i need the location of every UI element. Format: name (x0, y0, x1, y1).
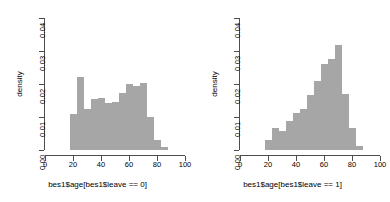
y-tick-label-wrap-right: 0.04 (195, 18, 233, 19)
histogram-bar (133, 86, 140, 150)
y-tick-label-left: 0.01 (38, 122, 47, 137)
histogram-bar (272, 128, 279, 150)
y-tick-label-wrap-right: 0.02 (195, 84, 233, 85)
histogram-panel-leave-1: density 0.000.010.020.030.04 02040608010… (195, 0, 390, 202)
x-axis-title-left: bes1$age[bes1$leave == 0] (0, 180, 195, 189)
y-tick-label-left: 0.03 (38, 56, 47, 71)
histogram-bar (279, 131, 286, 150)
x-axis-line-right (240, 155, 380, 156)
histogram-bar (91, 99, 98, 150)
x-tick-label-right: 20 (253, 160, 283, 169)
x-tick-label-right: 60 (309, 160, 339, 169)
histogram-bar (70, 114, 77, 150)
y-tick-left (39, 18, 44, 19)
y-tick-label-right: 0.01 (233, 122, 242, 137)
x-tick-label-left: 40 (86, 160, 116, 169)
y-tick-left (39, 84, 44, 85)
histogram-bar (328, 59, 335, 150)
histogram-bar (349, 128, 356, 150)
histogram-bar (147, 117, 154, 150)
y-tick-label-left: 0.04 (38, 23, 47, 38)
y-tick-label-wrap-left: 0.04 (0, 18, 38, 19)
histogram-bar (126, 84, 133, 150)
histogram-bar (342, 94, 349, 150)
x-tick-label-right: 80 (337, 160, 367, 169)
y-tick-label-wrap-right: 0.00 (195, 150, 233, 151)
y-tick-label-wrap-left: 0.03 (0, 51, 38, 52)
x-tick-label-left: 20 (58, 160, 88, 169)
figure-root: density 0.000.010.020.030.04 02040608010… (0, 0, 390, 202)
histogram-bar (293, 113, 300, 150)
y-tick-right (234, 18, 239, 19)
x-tick-label-right: 100 (365, 160, 390, 169)
y-tick-right (234, 150, 239, 151)
y-tick-right (234, 117, 239, 118)
x-tick-label-right: 40 (281, 160, 311, 169)
y-tick-label-right: 0.04 (233, 23, 242, 38)
histogram-bar (84, 109, 91, 150)
y-tick-left (39, 117, 44, 118)
histogram-bar (154, 140, 161, 150)
y-tick-label-wrap-left: 0.02 (0, 84, 38, 85)
x-tick-label-left: 60 (114, 160, 144, 169)
histogram-panel-leave-0: density 0.000.010.020.030.04 02040608010… (0, 0, 195, 202)
histogram-bar (314, 81, 321, 150)
y-tick-label-wrap-right: 0.01 (195, 117, 233, 118)
y-tick-right (234, 84, 239, 85)
histogram-bar (161, 147, 168, 150)
histogram-bar (98, 98, 105, 150)
histogram-bar (265, 140, 272, 150)
histogram-bar (307, 95, 314, 150)
y-tick-label-wrap-right: 0.03 (195, 51, 233, 52)
y-tick-label-right: 0.02 (233, 89, 242, 104)
x-axis-title-right: bes1$age[bes1$leave == 1] (195, 180, 390, 189)
histogram-bar (300, 109, 307, 150)
bars-right (240, 18, 380, 150)
y-tick-label-right: 0.03 (233, 56, 242, 71)
histogram-bar (77, 77, 84, 150)
histogram-bar (286, 121, 293, 150)
x-tick-label-right: 0 (225, 160, 255, 169)
bars-left (45, 18, 185, 150)
y-tick-left (39, 150, 44, 151)
histogram-bar (112, 102, 119, 150)
histogram-bar (321, 64, 328, 150)
x-tick-label-left: 0 (30, 160, 60, 169)
histogram-bar (140, 83, 147, 150)
x-axis-line-left (45, 155, 185, 156)
y-tick-label-wrap-left: 0.01 (0, 117, 38, 118)
histogram-bar (105, 103, 112, 150)
y-tick-label-wrap-left: 0.00 (0, 150, 38, 151)
y-tick-left (39, 51, 44, 52)
histogram-bar (356, 146, 363, 150)
y-tick-label-left: 0.02 (38, 89, 47, 104)
histogram-bar (119, 93, 126, 150)
y-tick-right (234, 51, 239, 52)
x-tick-label-left: 80 (142, 160, 172, 169)
histogram-bar (335, 45, 342, 150)
